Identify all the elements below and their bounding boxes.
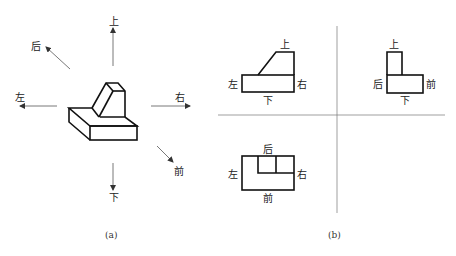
- label-right: 右: [175, 91, 185, 103]
- figure-a: 上 后 左 右 前 下 (a): [15, 16, 190, 240]
- top-view-label-top: 后: [263, 144, 273, 155]
- arrow-back-icon: [46, 47, 70, 69]
- top-view-label-bottom: 前: [263, 192, 273, 204]
- top-view: 后 左 右 前: [228, 144, 307, 204]
- figure-b: 上 左 右 下 上 后 前 下 后 左 右 前 (b): [218, 26, 445, 240]
- caption-a: (a): [105, 230, 117, 240]
- top-view-label-left: 左: [228, 168, 238, 180]
- side-view-label-bottom: 下: [400, 95, 410, 106]
- label-back: 后: [31, 41, 41, 52]
- side-view: 上 后 前 下: [373, 39, 436, 106]
- label-front: 前: [174, 165, 184, 177]
- caption-b: (b): [328, 230, 341, 240]
- arrow-front-icon: [157, 146, 173, 162]
- label-left: 左: [15, 91, 25, 103]
- isometric-object: [69, 83, 137, 140]
- label-down: 下: [109, 192, 119, 203]
- front-view-label-top: 上: [280, 39, 290, 50]
- label-up: 上: [109, 16, 119, 27]
- front-view: 上 左 右 下: [228, 39, 307, 106]
- front-view-label-bottom: 下: [263, 95, 273, 106]
- top-view-label-right: 右: [297, 168, 307, 180]
- side-view-label-top: 上: [389, 39, 399, 50]
- front-view-label-left: 左: [228, 78, 238, 90]
- diagram-canvas: 上 后 左 右 前 下 (a): [0, 0, 456, 256]
- front-view-label-right: 右: [297, 78, 307, 90]
- side-view-label-right: 前: [426, 78, 436, 90]
- side-view-label-left: 后: [373, 79, 383, 90]
